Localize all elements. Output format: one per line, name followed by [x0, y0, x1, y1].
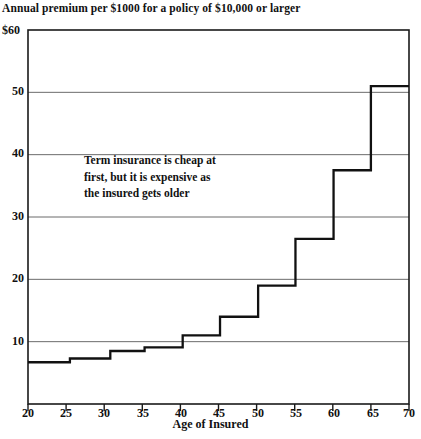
plot-area: [0, 0, 421, 439]
premium-step-line: [28, 86, 409, 362]
chart-container: Annual premium per $1000 for a policy of…: [0, 0, 421, 439]
